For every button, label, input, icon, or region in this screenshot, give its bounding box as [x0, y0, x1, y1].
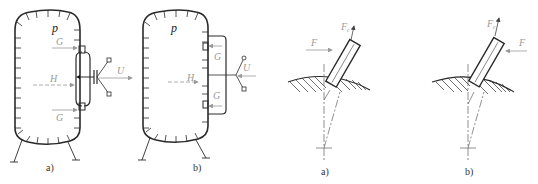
vessel-a-p-label: p — [51, 21, 58, 35]
valve-a-knob-top — [107, 58, 111, 62]
vessel-b-U-label: U — [243, 62, 251, 73]
nozzle-a-Fc-arrow — [351, 26, 354, 40]
vessel-b-caption: b) — [193, 162, 201, 174]
nozzle-b-F-label: F — [518, 37, 526, 48]
vessel-a-shell — [15, 10, 80, 144]
nozzle-b-figure: F Fc b) — [432, 18, 527, 178]
nozzle-a-pipe — [326, 40, 360, 88]
vessel-a-legs — [10, 140, 80, 162]
vessel-a-manifold — [76, 52, 90, 106]
nozzle-a-Fc-label: Fc — [340, 21, 350, 33]
vessel-a-U-label: U — [117, 65, 125, 76]
nozzle-b-Fc-label: Fc — [486, 18, 496, 30]
vessel-a-pressure-ticks — [15, 10, 80, 145]
vessel-b-G-bottom-label: G — [213, 90, 220, 101]
valve-b-knob-bottom — [242, 87, 246, 91]
valve-b-knob-top — [242, 56, 246, 60]
vessel-b-legs — [138, 138, 210, 160]
valve-a-knob-bottom — [107, 92, 111, 96]
vessel-b-figure: p G G H U b) — [138, 10, 256, 174]
diagram-canvas: p G G H U a) — [0, 0, 538, 184]
nozzle-a-figure: F Fc a) — [288, 21, 370, 178]
vessel-a-H-label: H — [49, 73, 58, 84]
vessel-b-H-label: H — [186, 72, 195, 83]
vessel-a-figure: p G G H U a) — [10, 10, 132, 174]
nozzle-b-caption: b) — [465, 166, 473, 178]
nozzle-a-caption: a) — [321, 166, 329, 178]
nozzle-a-F-label: F — [310, 37, 318, 48]
vessel-b-G-top-label: G — [214, 51, 221, 62]
vessel-a-G-top-label: G — [56, 36, 63, 47]
vessel-b-p-label: p — [170, 21, 177, 35]
vessel-a-G-bottom-label: G — [56, 112, 63, 123]
vessel-a-caption: a) — [46, 162, 54, 174]
